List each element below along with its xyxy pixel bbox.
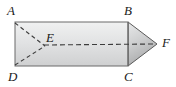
vertex-label-e: E [46,31,54,44]
vertex-label-a: A [7,4,15,17]
vertex-label-f: F [162,36,170,49]
geometry-figure: A B C D E F [0,0,176,87]
vertex-label-b: B [124,4,132,17]
figure-canvas [0,0,176,87]
vertex-label-c: C [124,70,133,83]
vertex-label-d: D [8,70,17,83]
